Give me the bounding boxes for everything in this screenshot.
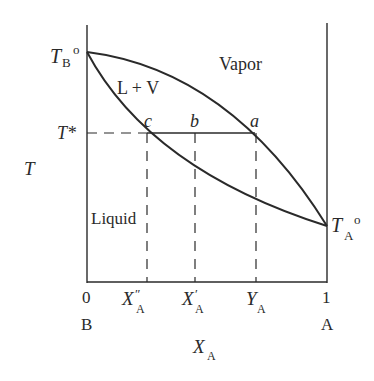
- point-c-label: c: [144, 111, 152, 131]
- svg-text:′: ′: [195, 286, 198, 301]
- y-axis-label: T: [24, 158, 36, 179]
- tick-xa-double-prime: X A ″: [121, 286, 145, 316]
- point-b-label: b: [190, 111, 199, 131]
- svg-text:″: ″: [135, 286, 140, 301]
- region-liquid: Liquid: [91, 209, 137, 228]
- svg-text:o: o: [73, 42, 80, 57]
- tb-label: T B o: [50, 42, 80, 70]
- phase-diagram: T B o T A o T* T Vapor L + V Liquid c b …: [0, 0, 374, 381]
- x-min-value: 0: [82, 288, 91, 307]
- svg-text:T: T: [331, 214, 344, 236]
- region-two-phase: L + V: [117, 78, 159, 98]
- svg-text:X: X: [181, 288, 195, 309]
- svg-text:A: A: [195, 302, 204, 316]
- x-min-component: B: [81, 315, 92, 334]
- svg-text:A: A: [136, 302, 145, 316]
- svg-text:A: A: [344, 228, 354, 243]
- x-max-value: 1: [322, 288, 331, 307]
- tick-xa-prime: X A ′: [181, 286, 204, 316]
- svg-text:A: A: [257, 302, 266, 316]
- tstar-label: T*: [57, 123, 76, 143]
- svg-text:B: B: [62, 55, 71, 70]
- svg-text:A: A: [207, 349, 216, 363]
- x-axis-label: X A: [192, 336, 216, 363]
- ta-label: T A o: [331, 212, 361, 243]
- svg-text:o: o: [354, 212, 361, 227]
- region-vapor: Vapor: [219, 54, 262, 74]
- svg-text:X: X: [192, 336, 206, 357]
- point-a-label: a: [250, 111, 259, 131]
- tick-ya: Y A: [246, 288, 266, 316]
- x-max-component: A: [321, 315, 334, 334]
- svg-text:X: X: [121, 288, 135, 309]
